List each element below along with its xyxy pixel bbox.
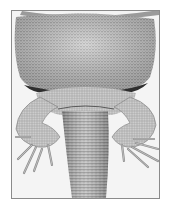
- photo-frame: [11, 10, 160, 199]
- lizard-belly: [15, 13, 156, 91]
- lizard-photo: [12, 11, 159, 198]
- lizard-tail: [62, 111, 109, 198]
- right-hind-leg: [112, 97, 158, 167]
- left-hind-leg: [16, 97, 60, 173]
